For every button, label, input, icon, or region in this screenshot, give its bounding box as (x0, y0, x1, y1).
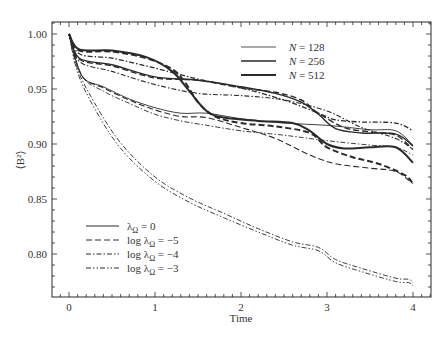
chart: 012340.800.850.900.951.00 N = 128N = 256… (0, 0, 447, 339)
legend-label: log λΩ = −5 (127, 234, 179, 249)
x-tick-label: 4 (410, 301, 416, 313)
series-line (69, 34, 413, 184)
series-line (69, 34, 413, 163)
legend-lambda: λΩ = 0log λΩ = −5log λΩ = −4log λΩ = −3 (86, 220, 179, 277)
y-axis-label: ⟨B²⟩ (14, 150, 26, 169)
x-tick-label: 1 (152, 301, 158, 313)
y-tick-label: 0.90 (28, 138, 48, 150)
legend-label: N = 512 (288, 69, 325, 81)
legend-label: N = 256 (288, 55, 325, 67)
data-series (69, 34, 413, 286)
legend-label: log λΩ = −3 (127, 262, 179, 277)
y-tick-label: 0.95 (28, 83, 48, 95)
x-tick-label: 3 (324, 301, 330, 313)
plot-border (52, 22, 431, 297)
axis-ticks (52, 22, 431, 297)
y-tick-label: 0.85 (28, 193, 48, 205)
y-tick-label: 0.80 (28, 248, 48, 260)
x-axis-label: Time (230, 312, 253, 324)
series-line (69, 34, 413, 283)
legend-label: N = 128 (288, 41, 325, 53)
legend-resolution: N = 128N = 256N = 512 (241, 41, 325, 81)
x-tick-label: 0 (66, 301, 72, 313)
y-tick-label: 1.00 (28, 28, 48, 40)
legend-label: log λΩ = −4 (127, 248, 179, 263)
plot-frame (52, 22, 431, 297)
series-line (69, 34, 413, 184)
series-line (69, 34, 413, 131)
axis-tick-labels: 012340.800.850.900.951.00 (28, 28, 417, 313)
legend-label: λΩ = 0 (127, 220, 156, 235)
